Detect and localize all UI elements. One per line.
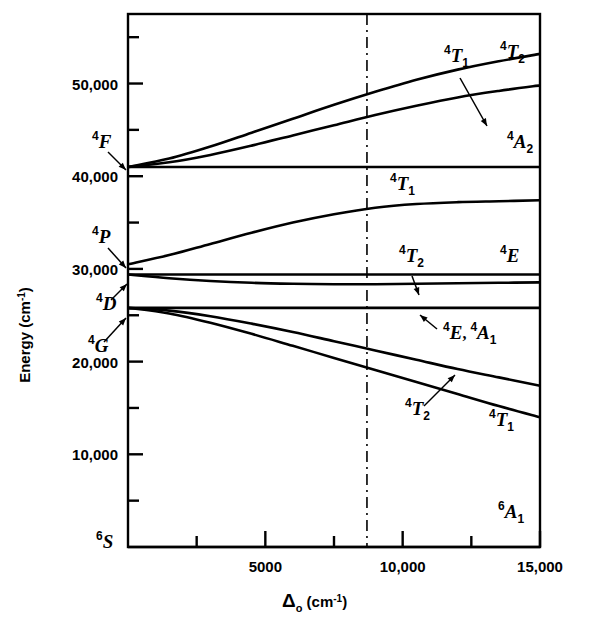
x-tick-label-5000: 5000	[249, 558, 282, 575]
free-ion-label-four-F: 4F	[92, 129, 112, 152]
y-tick-label-40000: 40,000	[72, 168, 118, 185]
y-axis-title-text: Energy (cm-1)	[16, 287, 33, 383]
label-4T2-D: 4T2	[399, 243, 424, 270]
label-4T1-upper-arrow-head	[481, 118, 487, 126]
label-4E-4A1-G-arrow	[420, 315, 437, 329]
curve-4t1-from-4p-	[128, 200, 540, 264]
y-tick-label-50000: 50,000	[72, 76, 118, 93]
x-tick-label-10000: 10,000	[380, 558, 426, 575]
label-4T1-G: 4T1	[489, 407, 514, 434]
label-4T1-upper-arrow-shaft	[460, 78, 487, 126]
y-axis-title: Energy (cm-1)	[16, 287, 33, 383]
label-4T1-upper: 4T1	[444, 43, 469, 70]
y-tick-label-20000: 20,000	[72, 354, 118, 371]
energy-level-diagram-figure: 10,00020,00030,00040,00050,000500010,000…	[0, 0, 597, 638]
energy-curves	[128, 54, 540, 547]
free-ion-label-six-S: 6S	[96, 529, 113, 552]
free-ion-arrow-four-D	[111, 284, 127, 300]
y-tick-label-10000: 10,000	[72, 446, 118, 463]
label-4E-4A1-G: 4E, 4A1	[443, 320, 497, 347]
label-4E-D: 4E	[500, 243, 519, 266]
x-axis-delta: Δ	[282, 590, 296, 611]
y-tick-label-30000: 30,000	[72, 261, 118, 278]
free-ion-label-four-D: 4D	[96, 291, 117, 314]
free-ion-label-four-P: 4P	[92, 224, 111, 247]
label-4T2-D-arrow	[412, 276, 419, 295]
label-6A1: 6A1	[498, 499, 524, 526]
curve-4t2-from-4g-	[128, 308, 540, 386]
label-4T2-G-arrow	[424, 375, 455, 406]
label-4T2-upper: 4T2	[500, 39, 525, 66]
free-ion-arrow-four-G	[104, 318, 126, 342]
label-4T1-P: 4T1	[390, 171, 415, 198]
label-4A2: 4A2	[507, 129, 533, 156]
free-ion-label-four-G: 4G	[88, 333, 109, 356]
x-axis-title-text: Δo (cm-1)	[282, 590, 347, 614]
curve-4a2-from-4f-	[128, 85, 540, 167]
free-ion-term-labels: 4F4P4D4G6S	[88, 129, 127, 552]
plot-svg: 10,00020,00030,00040,00050,000500010,000…	[0, 0, 597, 638]
label-4T1-upper-arrow	[460, 78, 487, 126]
curve-4t2-from-4d-	[128, 274, 540, 284]
label-4T2-D-arrow-head	[414, 287, 420, 295]
x-tick-label-15000: 15,000	[517, 558, 563, 575]
axis-ticks	[128, 37, 540, 547]
label-4T2-G: 4T2	[405, 396, 430, 423]
x-axis-title: Δo (cm-1)	[282, 590, 347, 614]
